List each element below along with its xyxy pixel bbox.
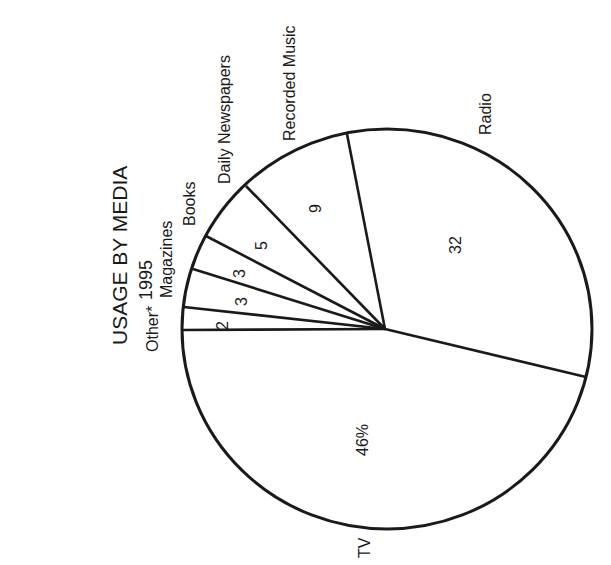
label-other: Other* [144,306,162,352]
chart-title: USAGE BY MEDIA [108,166,132,345]
value-radio: 32 [447,236,465,254]
value-magazines: 3 [233,297,251,306]
label-magazines: Magazines [158,221,176,298]
value-daily-newspapers: 5 [253,241,271,250]
label-daily-newspapers: Daily Newspapers [216,55,234,184]
value-recorded-music: 9 [307,204,325,213]
label-recorded-music: Recorded Music [281,25,299,141]
pie-graphic [0,0,611,565]
label-books: Books [181,182,199,226]
label-radio: Radio [477,93,495,135]
value-other: 2 [214,321,232,330]
slice-divider-tv-other [182,329,385,330]
pie-chart: USAGE BY MEDIA 1995 Other* Magazines Boo… [0,0,611,565]
value-tv: 46% [354,424,372,456]
label-tv: TV [356,538,374,558]
chart-subtitle: 1995 [136,260,157,300]
value-books: 3 [231,269,249,278]
